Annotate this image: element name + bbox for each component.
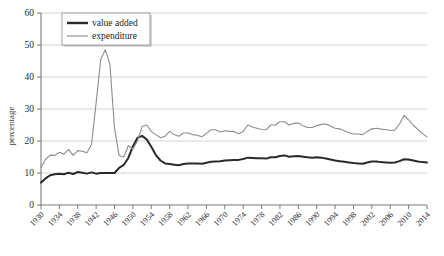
chart-container: 0102030405060 19301934193819421946195019… xyxy=(0,0,444,256)
chart-legend: value addedexpenditure xyxy=(62,13,152,47)
y-tick-label: 40 xyxy=(25,72,35,82)
y-axis-title-group: percentage xyxy=(6,107,16,146)
y-tick-label: 60 xyxy=(25,8,35,18)
y-tick-label: 30 xyxy=(25,104,35,114)
y-tick-label: 0 xyxy=(29,200,34,210)
legend-label-expenditure: expenditure xyxy=(92,31,137,41)
y-axis-title: percentage xyxy=(6,107,16,146)
legend-label-value-added: value added xyxy=(92,18,138,28)
line-chart: 0102030405060 19301934193819421946195019… xyxy=(0,0,444,256)
y-tick-label: 20 xyxy=(25,136,35,146)
y-tick-label: 50 xyxy=(25,40,35,50)
y-tick-label: 10 xyxy=(25,168,35,178)
